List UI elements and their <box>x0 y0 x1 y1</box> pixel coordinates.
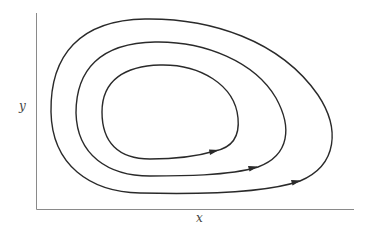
arrow-icon-inner <box>209 150 219 156</box>
x-axis-label: x <box>196 211 203 225</box>
orbit-middle <box>76 42 286 176</box>
orbit-inner <box>102 65 238 159</box>
y-axis-label: y <box>18 99 26 113</box>
axes <box>37 13 355 210</box>
arrow-icon-middle <box>248 166 258 172</box>
arrow-icon-outer <box>291 180 301 186</box>
phase-portrait-diagram: y x <box>0 0 372 234</box>
